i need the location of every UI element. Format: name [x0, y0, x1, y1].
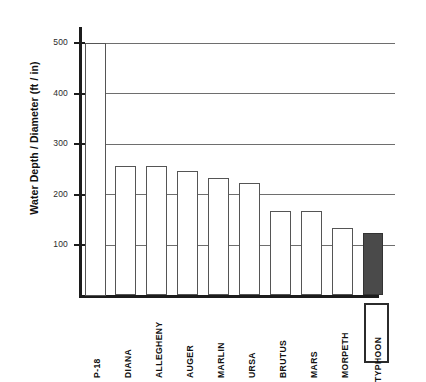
y-tick-label-300: 300: [28, 138, 68, 148]
y-tick-label-100: 100: [28, 239, 68, 249]
x-label-typhoon: TYPHOON: [372, 328, 384, 382]
y-tick-label-200: 200: [28, 189, 68, 199]
x-label-mars: MARS: [308, 302, 320, 378]
y-tick-300: [74, 143, 85, 145]
bar-brutus: [270, 211, 291, 295]
bar-p-18: [85, 43, 106, 296]
y-tick-label-500: 500: [28, 37, 68, 47]
x-label-allegheny: ALLEGHENY: [153, 302, 165, 378]
y-tick-400: [74, 93, 85, 95]
x-label-p-18: P-18: [91, 302, 103, 378]
x-label-marlin: MARLIN: [215, 302, 227, 378]
bar-diana: [115, 166, 136, 296]
bar-allegheny: [146, 166, 167, 296]
bar-ursa: [239, 183, 260, 295]
x-label-ursa: URSA: [246, 302, 258, 378]
bar-mars: [301, 211, 322, 296]
x-label-brutus: BRUTUS: [277, 302, 289, 378]
bar-auger: [177, 171, 198, 295]
x-label-auger: AUGER: [184, 302, 196, 378]
gridline-400: [81, 93, 395, 94]
x-label-morpeth: MORPETH: [339, 302, 351, 378]
bar-typhoon: [363, 233, 383, 295]
y-tick-500: [74, 42, 85, 44]
y-tick-100: [74, 244, 85, 246]
y-tick-label-400: 400: [28, 88, 68, 98]
x-label-diana: DIANA: [122, 302, 134, 378]
gridline-500: [81, 43, 395, 44]
bar-marlin: [208, 178, 229, 296]
gridline-300: [81, 144, 395, 145]
y-tick-200: [74, 194, 85, 196]
bar-morpeth: [332, 228, 353, 295]
y-axis-line: [79, 27, 82, 297]
